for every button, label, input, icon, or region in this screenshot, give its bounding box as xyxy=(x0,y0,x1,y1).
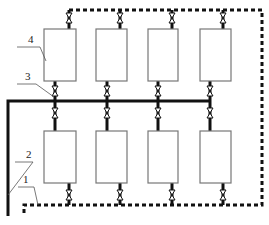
valve-icon xyxy=(155,108,161,118)
lower-inlet-valve-1 xyxy=(52,108,58,118)
valve-icon xyxy=(207,108,213,118)
valve-icon xyxy=(169,13,175,23)
valve-icon xyxy=(220,13,226,23)
label-1: 1 xyxy=(23,173,29,185)
lower-box-3 xyxy=(148,131,178,183)
valve-icon xyxy=(169,190,175,200)
upper-box-1 xyxy=(44,29,76,81)
lower-box-4 xyxy=(200,131,231,183)
upper-inlet-valve-3 xyxy=(155,86,161,96)
label-3: 3 xyxy=(25,70,31,82)
upper-box-4 xyxy=(200,29,231,81)
upper-outlet-valve-1 xyxy=(66,13,72,23)
upper-inlet-valve-1 xyxy=(52,86,58,96)
upper-outlet-valve-4 xyxy=(220,13,226,23)
valve-icon xyxy=(52,108,58,118)
lower-box-2 xyxy=(96,131,127,183)
upper-box-2 xyxy=(96,29,127,81)
valve-icon xyxy=(207,86,213,96)
equipment-boxes xyxy=(44,29,231,183)
lower-outlet-valve-4 xyxy=(220,190,226,200)
upper-outlet-valve-3 xyxy=(169,13,175,23)
lower-inlet-valve-3 xyxy=(155,108,161,118)
valve-icon xyxy=(52,86,58,96)
lower-inlet-valve-4 xyxy=(207,108,213,118)
piping-diagram: 1234 xyxy=(0,0,269,225)
lower-outlet-valve-3 xyxy=(169,190,175,200)
label-1-leader xyxy=(18,187,38,205)
valve-icon xyxy=(155,86,161,96)
valve-icon xyxy=(104,108,110,118)
valve-icon xyxy=(66,13,72,23)
upper-box-3 xyxy=(148,29,178,81)
lower-box-1 xyxy=(44,131,76,183)
valve-icon xyxy=(104,86,110,96)
lower-outlet-valve-1 xyxy=(66,190,72,200)
lower-inlet-valve-2 xyxy=(104,108,110,118)
label-3-leader xyxy=(17,84,54,97)
valve-icon xyxy=(117,13,123,23)
lower-outlet-valve-2 xyxy=(117,190,123,200)
upper-inlet-valve-4 xyxy=(207,86,213,96)
upper-outlet-valve-2 xyxy=(117,13,123,23)
valve-icon xyxy=(66,190,72,200)
valve-icon xyxy=(117,190,123,200)
valve-icon xyxy=(220,190,226,200)
label-2-leader xyxy=(8,162,33,195)
label-4: 4 xyxy=(28,33,34,45)
label-2: 2 xyxy=(26,148,32,160)
label-4-leader xyxy=(17,47,46,61)
upper-inlet-valve-2 xyxy=(104,86,110,96)
